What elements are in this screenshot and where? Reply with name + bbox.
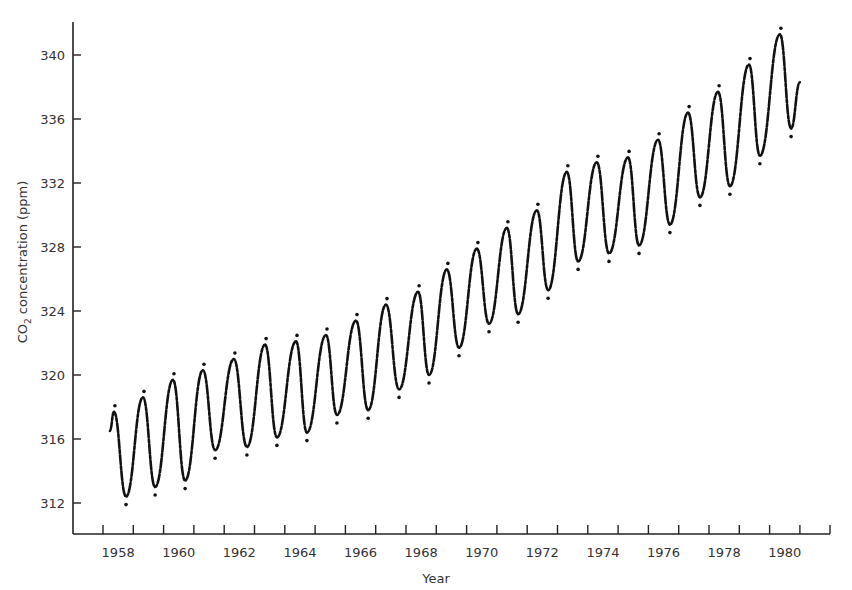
data-dot	[305, 439, 309, 443]
data-dot	[142, 390, 146, 394]
y-axis-title-rest: concentration (ppm)	[15, 181, 30, 319]
data-dot	[668, 231, 672, 235]
x-tick-label: 1978	[708, 545, 741, 560]
data-dot	[546, 296, 550, 300]
data-dot	[627, 150, 631, 154]
data-dot	[516, 320, 520, 324]
data-dot	[385, 297, 389, 301]
y-tick-label: 312	[40, 496, 65, 511]
data-dot	[397, 396, 401, 400]
data-dot	[335, 421, 339, 425]
co2-concentration-chart: 312316320324328332336340 195819601962196…	[0, 0, 852, 590]
data-dot	[687, 105, 691, 109]
data-dot	[698, 204, 702, 208]
data-dot	[366, 416, 370, 420]
data-dot	[576, 268, 580, 272]
data-dot	[183, 487, 187, 491]
data-dot	[113, 404, 117, 408]
data-dot	[657, 132, 661, 136]
x-axis: 1958196019621964196619681970197219741976…	[73, 525, 830, 560]
x-tick-label: 1970	[465, 545, 498, 560]
y-axis-title: CO2 concentration (ppm)	[15, 181, 33, 344]
x-tick-label: 1980	[768, 545, 801, 560]
data-dot	[748, 57, 752, 61]
x-tick-label: 1976	[647, 545, 680, 560]
y-axis-title-co: CO	[15, 324, 30, 343]
x-tick-label: 1958	[102, 545, 135, 560]
data-dot	[245, 453, 249, 457]
data-dot	[124, 503, 128, 507]
y-tick-label: 328	[40, 240, 65, 255]
data-dot	[758, 162, 762, 166]
y-tick-label: 320	[40, 368, 65, 383]
data-dot	[233, 351, 237, 355]
data-dot	[153, 493, 157, 497]
data-series	[110, 26, 800, 506]
data-dot	[789, 135, 793, 139]
y-tick-label: 332	[40, 176, 65, 191]
data-dot	[779, 26, 783, 30]
x-tick-label: 1964	[283, 545, 316, 560]
y-tick-label: 336	[40, 112, 65, 127]
y-tick-label: 324	[40, 304, 65, 319]
data-dot	[427, 381, 431, 385]
data-dot	[275, 444, 279, 448]
data-dot	[476, 241, 480, 245]
data-dot	[637, 252, 641, 256]
data-dot	[717, 84, 721, 88]
data-dot	[506, 220, 510, 224]
data-dot	[417, 284, 421, 288]
x-axis-title: Year	[421, 571, 450, 586]
y-tick-label: 340	[40, 48, 65, 63]
data-dot	[446, 262, 450, 266]
data-dot	[325, 327, 329, 331]
data-dot	[487, 330, 491, 334]
x-tick-label: 1968	[405, 545, 438, 560]
x-tick-label: 1974	[586, 545, 619, 560]
x-tick-label: 1972	[526, 545, 559, 560]
data-dot	[728, 192, 732, 196]
x-tick-label: 1962	[223, 545, 256, 560]
data-dot	[536, 202, 540, 206]
data-dot	[264, 337, 268, 341]
x-tick-label: 1960	[162, 545, 195, 560]
data-dot	[566, 164, 570, 168]
y-axis: 312316320324328332336340	[40, 22, 81, 534]
co2-line	[110, 34, 800, 496]
data-dot	[457, 354, 461, 358]
data-dot	[596, 154, 600, 158]
data-dot	[607, 260, 611, 264]
data-dot	[172, 372, 176, 376]
data-dot	[213, 456, 217, 460]
data-dot	[295, 334, 299, 338]
y-tick-label: 316	[40, 432, 65, 447]
x-tick-label: 1966	[344, 545, 377, 560]
data-dot	[355, 313, 359, 317]
data-dot	[202, 362, 206, 366]
